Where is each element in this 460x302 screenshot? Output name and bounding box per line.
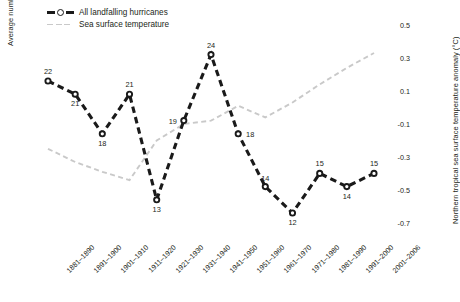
right-axis-tick-4: -0.3 xyxy=(388,153,410,162)
right-axis-tick-3: -0.1 xyxy=(388,120,410,129)
data-label-6: 24 xyxy=(202,41,220,50)
data-label-4: 13 xyxy=(148,205,166,214)
hurricane-data-markers xyxy=(45,52,376,216)
data-point-marker xyxy=(290,210,295,215)
data-point-marker xyxy=(208,52,213,57)
data-label-3: 21 xyxy=(121,80,139,89)
data-label-12: 15 xyxy=(365,159,383,168)
data-point-marker xyxy=(45,78,50,83)
data-point-marker xyxy=(127,92,132,97)
hurricane-series-line xyxy=(48,55,374,213)
data-label-8: 14 xyxy=(256,174,274,183)
right-axis-tick-1: 0.3 xyxy=(388,54,410,63)
right-axis-tick-6: -0.7 xyxy=(388,219,410,228)
data-point-marker xyxy=(317,171,322,176)
data-point-marker xyxy=(236,131,241,136)
data-point-marker xyxy=(181,118,186,123)
data-point-marker xyxy=(154,197,159,202)
data-point-marker xyxy=(344,184,349,189)
data-point-marker xyxy=(263,184,268,189)
right-axis-tick-5: -0.5 xyxy=(388,186,410,195)
data-label-2: 18 xyxy=(93,139,111,148)
data-label-0: 22 xyxy=(39,67,57,76)
data-label-11: 14 xyxy=(338,192,356,201)
data-point-marker xyxy=(100,131,105,136)
data-label-9: 12 xyxy=(284,218,302,227)
data-label-7: 18 xyxy=(241,130,259,139)
data-label-5: 19 xyxy=(164,117,182,126)
data-label-10: 15 xyxy=(311,159,329,168)
data-label-1: 21 xyxy=(66,99,84,108)
right-axis-tick-2: 0.1 xyxy=(388,87,410,96)
right-axis-tick-0: 0.5 xyxy=(388,21,410,30)
data-point-marker xyxy=(371,171,376,176)
data-point-marker xyxy=(73,92,78,97)
